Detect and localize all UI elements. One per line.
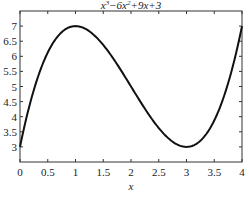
x-tick-label: 1.5 xyxy=(96,166,110,178)
y-tick-label: 7 xyxy=(12,20,18,32)
x-tick-label: 4 xyxy=(239,166,245,178)
y-tick-label: 6 xyxy=(12,50,18,62)
x-tick-label: 0.5 xyxy=(41,166,55,178)
chart: x3−6x2+9x+3 00.511.522.533.5433.544.555.… xyxy=(0,0,249,197)
y-tick-label: 3.5 xyxy=(3,126,17,138)
x-axis-label: x xyxy=(128,180,134,192)
x-tick-label: 3.5 xyxy=(207,166,221,178)
x-tick-label: 2.5 xyxy=(152,166,166,178)
chart-title: x3−6x2+9x+3 xyxy=(100,0,162,11)
y-tick-label: 5.5 xyxy=(3,65,17,77)
x-tick-label: 0 xyxy=(17,166,23,178)
y-tick-label: 4.5 xyxy=(3,96,17,108)
y-tick-label: 6.5 xyxy=(3,35,17,47)
svg-text:x3−6x2+9x+3: x3−6x2+9x+3 xyxy=(100,0,162,11)
y-tick-label: 4 xyxy=(12,111,18,123)
axis-ticks: 00.511.522.533.5433.544.555.566.57 xyxy=(3,11,245,178)
y-tick-label: 5 xyxy=(12,81,18,93)
x-tick-label: 2 xyxy=(128,166,134,178)
y-tick-label: 3 xyxy=(12,141,18,153)
x-tick-label: 1 xyxy=(73,166,79,178)
x-tick-label: 3 xyxy=(184,166,190,178)
data-line xyxy=(20,26,242,147)
